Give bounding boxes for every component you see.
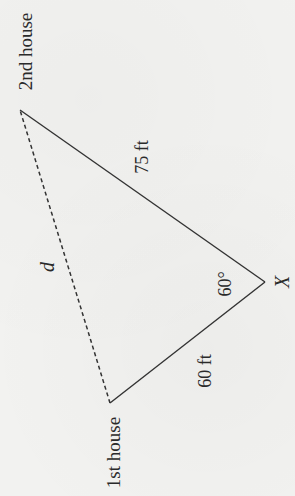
label-side-75ft: 75 ft (133, 127, 151, 187)
label-2nd-house: 2nd house (16, 2, 35, 102)
label-1st-house: 1st house (104, 405, 123, 496)
label-side-60ft: 60 ft (196, 343, 214, 399)
diagram-canvas: 2nd house 75 ft d 60° X 60 ft 1st house (0, 0, 295, 496)
label-side-d: d (37, 257, 57, 277)
edge-d-dashed (20, 110, 110, 403)
label-vertex-x: X (272, 272, 292, 292)
label-angle-60: 60° (216, 264, 234, 304)
triangle-figure (0, 0, 295, 496)
edge-60ft (110, 282, 265, 403)
